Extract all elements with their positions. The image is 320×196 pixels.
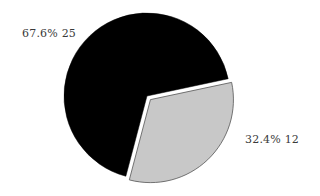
slice-label-gray: 32.4% 12 <box>245 133 299 146</box>
slice-label-black: 67.6% 25 <box>22 27 76 40</box>
